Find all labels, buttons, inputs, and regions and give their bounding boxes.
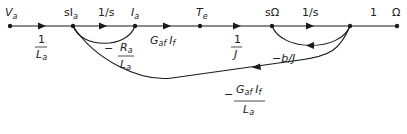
gain-ra-num: Ra	[120, 41, 133, 55]
arrow-icon	[306, 42, 314, 49]
label-somega: sΩ	[265, 6, 279, 19]
label-sia: sIa	[64, 6, 78, 21]
node-six	[348, 24, 352, 28]
gain-1-over-j-num: 1	[234, 33, 241, 46]
node-ia	[133, 24, 137, 28]
arrow-icon	[99, 23, 107, 30]
node-omega	[395, 24, 399, 28]
gain-ra-den: La	[120, 58, 131, 72]
gain-1-over-j-den: J	[232, 48, 237, 61]
node-va	[8, 24, 12, 28]
node-sia	[71, 24, 75, 28]
arrow-icon	[306, 23, 314, 30]
loop-b-j	[272, 26, 350, 46]
gain-one: 1	[370, 6, 377, 19]
gain-fb-minus: −	[224, 88, 233, 101]
arrow-icon	[233, 23, 241, 30]
gain-b-over-j: −b/J	[272, 52, 295, 65]
gain-1-over-s-a: 1/s	[98, 6, 115, 19]
gain-1-over-la-den: La	[36, 48, 47, 62]
gain-gaf-if: GafIf	[150, 34, 177, 48]
gain-1-over-la-num: 1	[38, 33, 45, 46]
gain-ra-minus: −	[104, 42, 113, 55]
label-va: Va	[5, 6, 18, 21]
label-omega: Ω	[392, 6, 400, 19]
gain-fb-den: La	[243, 103, 254, 117]
node-somega	[270, 24, 274, 28]
gain-fb-num: GafIf	[236, 83, 263, 97]
gain-1-over-s-b: 1/s	[302, 6, 319, 19]
arrow-icon	[38, 23, 46, 30]
node-te	[198, 24, 202, 28]
label-te: Te	[196, 6, 208, 21]
signal-flow-graph: Va sIa Ia Te sΩ Ω 1/s 1/s 1 1 La − Ra La…	[0, 0, 407, 134]
feedback-path	[73, 26, 350, 78]
label-ia: Ia	[131, 6, 139, 21]
arrow-icon	[163, 23, 171, 30]
